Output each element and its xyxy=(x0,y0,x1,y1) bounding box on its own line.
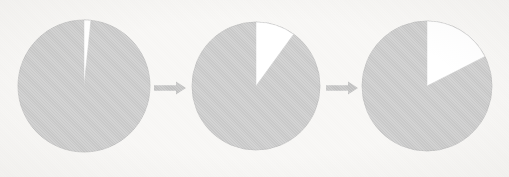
arrow-1 xyxy=(154,82,186,95)
pie-chart-2 xyxy=(192,22,320,150)
arrow-2 xyxy=(326,82,358,95)
arrow-right-icon xyxy=(326,82,358,95)
arrow-right-icon xyxy=(154,82,186,95)
figure-canvas xyxy=(0,0,509,177)
pie-chart-1 xyxy=(18,20,150,152)
pie-chart-3 xyxy=(362,21,492,151)
pie-progression-figure xyxy=(0,0,509,177)
